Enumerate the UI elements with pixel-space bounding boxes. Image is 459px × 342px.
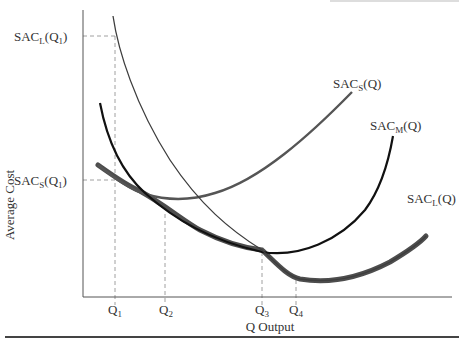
label-sacl: SACL(Q) <box>407 191 456 208</box>
ytick-sacs-q1: SACS(Q1) <box>14 173 67 190</box>
envelope-curve <box>98 165 426 281</box>
dashed-guides <box>83 36 296 305</box>
sacl-curve <box>113 16 426 281</box>
xtick-q3: Q3 <box>255 302 269 319</box>
label-sacs: SACS(Q) <box>333 76 381 93</box>
xtick-q1: Q1 <box>108 302 122 319</box>
sacm-curve <box>100 103 393 253</box>
y-axis-label: Average Cost <box>2 170 17 241</box>
ytick-sacl-q1: SACL(Q1) <box>14 29 67 46</box>
xtick-q4: Q4 <box>289 302 303 319</box>
x-axis-label: Q Output <box>246 319 295 334</box>
xtick-q2: Q2 <box>159 302 173 319</box>
cost-curves-diagram: SACL(Q1) SACS(Q1) Average Cost Q1 Q2 Q3 … <box>0 0 459 342</box>
label-sacm: SACM(Q) <box>370 118 421 135</box>
